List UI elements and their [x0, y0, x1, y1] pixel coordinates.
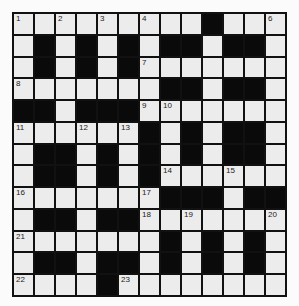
- grid-cell[interactable]: [161, 275, 180, 295]
- grid-cell[interactable]: [119, 79, 138, 99]
- grid-cell[interactable]: [224, 253, 243, 273]
- grid-cell[interactable]: [182, 58, 201, 78]
- grid-cell[interactable]: [77, 145, 96, 165]
- grid-cell[interactable]: [56, 275, 75, 295]
- grid-cell[interactable]: [98, 232, 117, 252]
- grid-cell[interactable]: 20: [266, 210, 285, 230]
- grid-cell[interactable]: 8: [14, 79, 33, 99]
- grid-cell[interactable]: 15: [224, 166, 243, 186]
- grid-cell[interactable]: [56, 58, 75, 78]
- grid-cell[interactable]: [77, 232, 96, 252]
- grid-cell[interactable]: [77, 253, 96, 273]
- grid-cell[interactable]: 16: [14, 188, 33, 208]
- grid-cell[interactable]: 2: [56, 14, 75, 34]
- grid-cell[interactable]: [119, 145, 138, 165]
- grid-cell[interactable]: [56, 123, 75, 143]
- grid-cell[interactable]: [266, 253, 285, 273]
- grid-cell[interactable]: 11: [14, 123, 33, 143]
- grid-cell[interactable]: [35, 275, 54, 295]
- grid-cell[interactable]: [14, 145, 33, 165]
- grid-cell[interactable]: [56, 188, 75, 208]
- grid-cell[interactable]: [35, 79, 54, 99]
- grid-cell[interactable]: [56, 79, 75, 99]
- grid-cell[interactable]: [119, 14, 138, 34]
- grid-cell[interactable]: [98, 188, 117, 208]
- grid-cell[interactable]: [77, 166, 96, 186]
- grid-cell[interactable]: [203, 166, 222, 186]
- grid-cell[interactable]: [77, 188, 96, 208]
- grid-cell[interactable]: [245, 58, 264, 78]
- grid-cell[interactable]: [182, 101, 201, 121]
- grid-cell[interactable]: 9: [140, 101, 159, 121]
- grid-cell[interactable]: [203, 101, 222, 121]
- grid-cell[interactable]: [266, 58, 285, 78]
- grid-cell[interactable]: [140, 275, 159, 295]
- grid-cell[interactable]: [266, 36, 285, 56]
- grid-cell[interactable]: [203, 275, 222, 295]
- grid-cell[interactable]: [161, 145, 180, 165]
- grid-cell[interactable]: [224, 232, 243, 252]
- grid-cell[interactable]: [203, 145, 222, 165]
- grid-cell[interactable]: [14, 210, 33, 230]
- grid-cell[interactable]: [98, 58, 117, 78]
- grid-cell[interactable]: [203, 79, 222, 99]
- grid-cell[interactable]: [14, 253, 33, 273]
- grid-cell[interactable]: [182, 232, 201, 252]
- grid-cell[interactable]: [224, 101, 243, 121]
- grid-cell[interactable]: [56, 101, 75, 121]
- grid-cell[interactable]: [98, 36, 117, 56]
- grid-cell[interactable]: [77, 79, 96, 99]
- grid-cell[interactable]: [245, 275, 264, 295]
- grid-cell[interactable]: [266, 166, 285, 186]
- grid-cell[interactable]: [266, 79, 285, 99]
- grid-cell[interactable]: [245, 210, 264, 230]
- grid-cell[interactable]: 7: [140, 58, 159, 78]
- grid-cell[interactable]: 17: [140, 188, 159, 208]
- grid-cell[interactable]: 21: [14, 232, 33, 252]
- grid-cell[interactable]: 14: [161, 166, 180, 186]
- grid-cell[interactable]: [182, 275, 201, 295]
- grid-cell[interactable]: [245, 14, 264, 34]
- grid-cell[interactable]: [140, 232, 159, 252]
- grid-cell[interactable]: [119, 188, 138, 208]
- grid-cell[interactable]: [140, 79, 159, 99]
- grid-cell[interactable]: [98, 79, 117, 99]
- grid-cell[interactable]: [119, 232, 138, 252]
- grid-cell[interactable]: [77, 210, 96, 230]
- grid-cell[interactable]: 6: [266, 14, 285, 34]
- grid-cell[interactable]: [77, 14, 96, 34]
- grid-cell[interactable]: [203, 58, 222, 78]
- grid-cell[interactable]: [140, 253, 159, 273]
- grid-cell[interactable]: 10: [161, 101, 180, 121]
- grid-cell[interactable]: 12: [77, 123, 96, 143]
- grid-cell[interactable]: [161, 14, 180, 34]
- grid-cell[interactable]: [266, 232, 285, 252]
- grid-cell[interactable]: [203, 210, 222, 230]
- grid-cell[interactable]: 22: [14, 275, 33, 295]
- grid-cell[interactable]: 19: [182, 210, 201, 230]
- grid-cell[interactable]: [203, 123, 222, 143]
- grid-cell[interactable]: [266, 123, 285, 143]
- grid-cell[interactable]: [224, 58, 243, 78]
- grid-cell[interactable]: [56, 232, 75, 252]
- grid-cell[interactable]: [35, 123, 54, 143]
- grid-cell[interactable]: [35, 188, 54, 208]
- grid-cell[interactable]: [266, 275, 285, 295]
- grid-cell[interactable]: [224, 275, 243, 295]
- grid-cell[interactable]: [35, 232, 54, 252]
- grid-cell[interactable]: [14, 58, 33, 78]
- grid-cell[interactable]: [56, 36, 75, 56]
- grid-cell[interactable]: [161, 123, 180, 143]
- grid-cell[interactable]: 1: [14, 14, 33, 34]
- grid-cell[interactable]: 13: [119, 123, 138, 143]
- grid-cell[interactable]: [161, 210, 180, 230]
- grid-cell[interactable]: [224, 188, 243, 208]
- grid-cell[interactable]: [203, 36, 222, 56]
- grid-cell[interactable]: [77, 275, 96, 295]
- grid-cell[interactable]: 4: [140, 14, 159, 34]
- grid-cell[interactable]: [182, 253, 201, 273]
- grid-cell[interactable]: [140, 36, 159, 56]
- grid-cell[interactable]: [14, 166, 33, 186]
- grid-cell[interactable]: [14, 36, 33, 56]
- grid-cell[interactable]: [35, 14, 54, 34]
